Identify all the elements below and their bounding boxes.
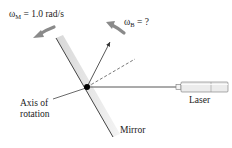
axis-leader-line [53, 88, 86, 99]
axis-of-rotation-label: Axis of rotation [20, 98, 50, 120]
omega-m-arrow-icon [33, 27, 54, 38]
laser-device [176, 82, 228, 92]
omega-b-label: ωB = ? [124, 17, 149, 30]
omega-m-label: ωM = 1.0 rad/s [9, 9, 64, 22]
mirror-label: Mirror [120, 125, 145, 136]
pivot-dot [84, 84, 90, 90]
laser-label: Laser [189, 95, 210, 106]
reflected-beam [87, 42, 110, 87]
omega-b-arrow-icon [106, 21, 124, 33]
diagram-canvas [0, 0, 232, 148]
